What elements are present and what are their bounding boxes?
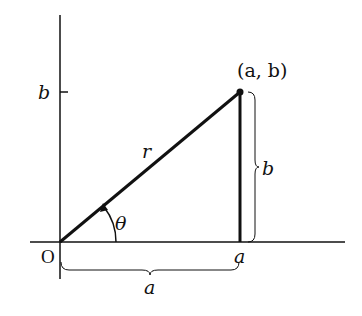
radius-line [60,92,240,242]
vertical-brace-label: b [262,157,274,179]
angle-label: θ [115,212,127,234]
origin-label: O [41,246,55,267]
polar-diagram: b (a, b) r θ b O a a [0,0,362,316]
radius-label: r [142,140,153,162]
point-marker [237,89,244,96]
horizontal-brace [61,262,239,275]
vertical-brace [248,92,259,242]
point-label: (a, b) [237,59,287,81]
x-tick-label: a [234,245,245,267]
y-tick-label: b [38,81,50,103]
horizontal-brace-label: a [144,276,155,298]
